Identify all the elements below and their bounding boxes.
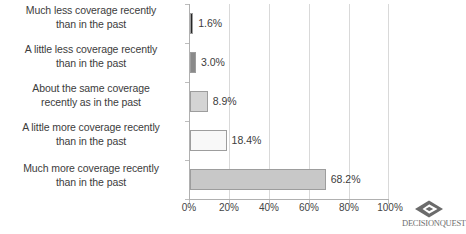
value-axis-labels: 0% 20% 40% 60% 80% 100%	[189, 202, 399, 218]
bar	[190, 52, 196, 73]
bar	[190, 169, 326, 190]
bar-value-label: 1.6%	[198, 13, 222, 34]
bar-value-label: 18.4%	[232, 130, 262, 151]
category-axis-labels: Much less coverage recently than in the …	[0, 0, 185, 200]
category-label-line1: A little less coverage recently	[0, 43, 182, 57]
category-tick	[185, 4, 189, 5]
category-label: About the same coverage recently as in t…	[0, 82, 182, 109]
category-label-line1: Much more coverage recently	[0, 162, 182, 176]
category-tick	[185, 121, 189, 122]
bar	[190, 130, 227, 151]
category-label: A little less coverage recently than in …	[0, 43, 182, 70]
category-label-line1: About the same coverage	[0, 82, 182, 96]
bar	[190, 91, 208, 112]
bar-value-label: 68.2%	[331, 169, 361, 190]
category-tick	[185, 160, 189, 161]
category-tick	[185, 43, 189, 44]
bar-value-label: 3.0%	[201, 52, 225, 73]
category-label-line2: than in the past	[0, 18, 182, 32]
value-axis-tick-label: 80%	[339, 202, 359, 213]
gridline-100	[388, 4, 389, 200]
value-axis-tick-label: 20%	[219, 202, 239, 213]
category-label-line2: than in the past	[0, 176, 182, 190]
value-axis-tick-label: 0%	[182, 202, 196, 213]
value-axis-tick-label: 100%	[377, 202, 403, 213]
decisionquest-logo: DECISIONQUEST	[404, 200, 454, 234]
category-axis-line	[189, 199, 389, 200]
value-axis-tick-label: 60%	[299, 202, 319, 213]
decisionquest-wordmark: DECISIONQUEST	[402, 218, 456, 228]
category-label-line2: than in the past	[0, 135, 182, 149]
category-label: Much less coverage recently than in the …	[0, 4, 182, 31]
value-axis-tick-label: 40%	[259, 202, 279, 213]
category-label-line2: recently as in the past	[0, 96, 182, 110]
bar-value-label: 8.9%	[213, 91, 237, 112]
category-tick	[185, 82, 189, 83]
bar	[190, 13, 193, 34]
category-label-line1: A little more coverage recently	[0, 121, 182, 135]
category-label: A little more coverage recently than in …	[0, 121, 182, 148]
category-label: Much more coverage recently than in the …	[0, 162, 182, 189]
plot-area: 1.6% 3.0% 8.9% 18.4% 68.2%	[189, 4, 389, 200]
category-label-line1: Much less coverage recently	[0, 4, 182, 18]
category-label-line2: than in the past	[0, 57, 182, 71]
